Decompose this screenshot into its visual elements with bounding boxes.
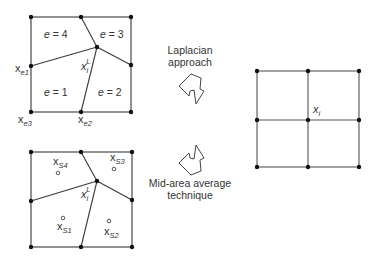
arrow-right-icon xyxy=(179,74,204,104)
node xyxy=(255,118,259,122)
node xyxy=(357,118,361,122)
label-xiL-bottom: xiL xyxy=(80,185,90,203)
node xyxy=(79,15,83,19)
node-center xyxy=(306,118,310,122)
method-caption-line1: Mid-area average xyxy=(149,177,231,189)
node xyxy=(130,245,134,249)
method-laplacian: Laplacian approach xyxy=(168,44,213,104)
top-mesh-edge xyxy=(81,17,97,47)
centroid-s3 xyxy=(112,167,116,171)
label-xiL-top: xiL xyxy=(80,57,90,75)
node-xe1 xyxy=(29,64,33,68)
node xyxy=(29,199,33,203)
label-xi: xi xyxy=(312,103,321,118)
centroid-s4 xyxy=(56,171,60,175)
bottom-mesh-edge xyxy=(81,152,97,181)
node xyxy=(130,150,134,154)
top-mesh-edge xyxy=(97,47,131,65)
label-xs3: xS3 xyxy=(110,151,126,166)
top-mesh: ee = 4 = 4 e = 3 e = 1 e = 2 xiL xe1 xe3… xyxy=(15,15,133,128)
bottom-mesh-edge xyxy=(97,181,132,200)
node xyxy=(357,165,361,169)
node-xe3 xyxy=(29,110,33,114)
node xyxy=(255,69,259,73)
label-xe3: xe3 xyxy=(18,113,33,128)
element-label-e4: ee = 4 = 4 xyxy=(44,28,68,40)
element-label-e3: e = 3 xyxy=(100,28,124,40)
arrow-right-icon xyxy=(179,145,204,175)
node xyxy=(79,150,83,154)
node xyxy=(29,150,33,154)
node xyxy=(306,69,310,73)
label-xs1: xS1 xyxy=(57,220,72,235)
label-xs2: xS2 xyxy=(104,225,120,240)
element-label-e2: e = 2 xyxy=(98,86,122,98)
label-xe2: xe2 xyxy=(78,113,93,128)
node xyxy=(29,245,33,249)
label-xs4: xS4 xyxy=(53,155,68,170)
result-grid: xi xyxy=(255,69,361,169)
method-caption-line2: approach xyxy=(168,56,212,68)
node xyxy=(306,165,310,169)
node xyxy=(129,63,133,67)
bottom-mesh: xS4 xS3 xS1 xS2 xiL xyxy=(29,150,134,249)
node xyxy=(29,15,33,19)
method-caption-line1: Laplacian xyxy=(168,44,213,56)
label-xe1: xe1 xyxy=(15,62,29,77)
node xyxy=(255,165,259,169)
element-label-e1: e = 1 xyxy=(44,86,68,98)
method-mid-area: Mid-area average technique xyxy=(149,145,231,201)
node xyxy=(79,245,83,249)
node-interior xyxy=(95,179,99,183)
centroid-s2 xyxy=(107,219,111,223)
method-caption-line2: technique xyxy=(167,189,213,201)
node-interior xyxy=(95,45,99,49)
node xyxy=(129,110,133,114)
node xyxy=(357,69,361,73)
smoothing-diagram: ee = 4 = 4 e = 3 e = 1 e = 2 xiL xe1 xe3… xyxy=(0,0,375,261)
node xyxy=(129,15,133,19)
node xyxy=(130,198,134,202)
